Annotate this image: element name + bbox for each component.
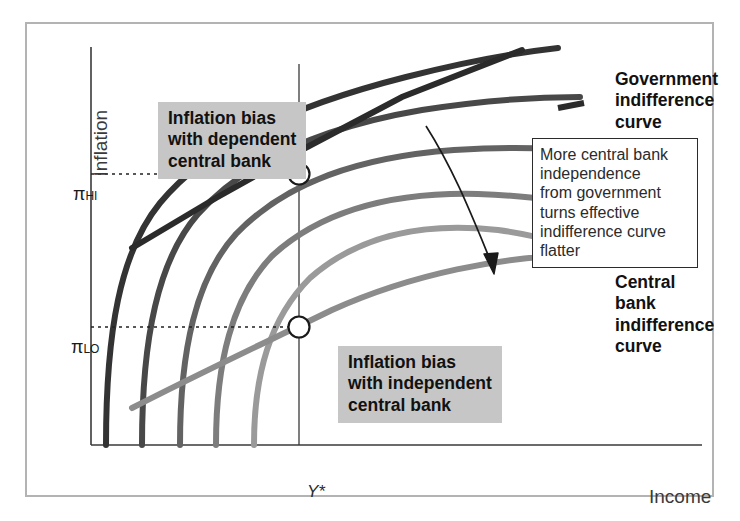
- label-line: indifference: [615, 90, 718, 111]
- x-axis-label: Income: [649, 486, 711, 508]
- pi-hi-subscript: HI: [85, 189, 97, 203]
- annotation-textbox: More central bank independence from gove…: [532, 138, 698, 268]
- label-line: with independent: [348, 373, 492, 394]
- label-inflation-bias-dependent: Inflation bias with dependent central ba…: [158, 102, 306, 179]
- annotation-line: from government: [540, 183, 697, 202]
- label-line: curve: [615, 112, 718, 133]
- figure-frame: Inflation Income πHI πLO Y* Inflation bi…: [25, 22, 714, 497]
- label-line: central bank: [348, 395, 492, 416]
- label-line: central bank: [168, 151, 296, 172]
- annotation-line: indifference curve: [540, 222, 697, 241]
- label-line: Inflation bias: [168, 108, 296, 129]
- pi-lo-symbol: π: [71, 337, 83, 357]
- annotation-line: More central bank: [540, 145, 697, 164]
- annotation-line: flatter: [540, 241, 697, 260]
- pi-lo-subscript: LO: [83, 342, 99, 356]
- equilibrium-independent-central-bank: [289, 317, 310, 338]
- label-central-bank-indifference-curve: Central bank indifference curve: [615, 272, 714, 357]
- label-line: indifference: [615, 315, 714, 336]
- tick-label-y-star: Y*: [307, 482, 325, 502]
- annotation-line: turns effective: [540, 203, 697, 222]
- pi-hi-symbol: π: [73, 184, 85, 204]
- government-curve-swatch: [558, 103, 584, 108]
- label-line: with dependent: [168, 129, 296, 150]
- label-line: Central bank: [615, 272, 714, 315]
- tick-label-pi-lo: πLO: [71, 337, 99, 358]
- label-line: curve: [615, 336, 714, 357]
- label-line: Inflation bias: [348, 352, 492, 373]
- tick-label-pi-hi: πHI: [73, 184, 97, 205]
- label-line: Government: [615, 69, 718, 90]
- figure-page: Inflation Income πHI πLO Y* Inflation bi…: [0, 0, 740, 521]
- label-government-indifference-curve: Government indifference curve: [615, 69, 718, 133]
- label-inflation-bias-independent: Inflation bias with independent central …: [338, 346, 502, 423]
- annotation-line: independence: [540, 164, 697, 183]
